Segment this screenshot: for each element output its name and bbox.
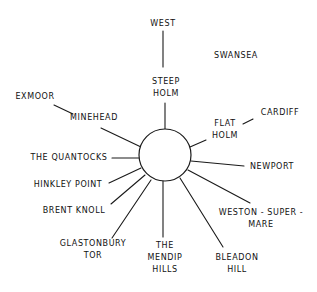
label-the-mendip-hills: THEMENDIPHILLS	[148, 240, 183, 276]
label-line: SWANSEA	[214, 50, 258, 62]
label-weston-super-mare: WESTON - SUPER -MARE	[219, 207, 304, 231]
label-line: HOLM	[212, 130, 238, 142]
label-line: GLASTONBURY	[60, 238, 126, 250]
label-exmoor: EXMOOR	[15, 91, 54, 103]
connector-cardiff-to-flat-holm	[243, 119, 253, 124]
label-line: MENDIP	[148, 252, 183, 264]
label-line: MINEHEAD	[70, 112, 118, 124]
label-brent-knoll: BRENT KNOLL	[43, 205, 106, 217]
connector-bleadon-hill-to-center	[180, 178, 223, 247]
label-line: TOR	[60, 250, 126, 262]
label-line: CARDIFF	[261, 107, 300, 119]
connector-newport-to-center	[191, 161, 244, 166]
label-glastonbury-tor: GLASTONBURYTOR	[60, 238, 126, 262]
label-bleadon-hill: BLEADONHILL	[215, 252, 258, 276]
label-the-quantocks: THE QUANTOCKS	[30, 152, 107, 164]
label-steep-holm: STEEPHOLM	[152, 76, 180, 100]
label-line: BRENT KNOLL	[43, 205, 106, 217]
label-line: THE QUANTOCKS	[30, 152, 107, 164]
label-swansea: SWANSEA	[214, 50, 258, 62]
label-line: THE	[148, 240, 183, 252]
label-line: STEEP	[152, 76, 180, 88]
label-line: BLEADON	[215, 252, 258, 264]
connector-weston-super-mare-to-center	[188, 170, 250, 203]
label-minehead: MINEHEAD	[70, 112, 118, 124]
label-line: FLAT	[212, 118, 238, 130]
label-line: HINKLEY POINT	[34, 179, 103, 191]
connector-glastonbury-tor-to-center	[112, 180, 151, 238]
label-line: HOLM	[152, 88, 180, 100]
radial-landmark-diagram: WESTSWANSEASTEEPHOLMEXMOORMINEHEADCARDIF…	[0, 0, 317, 292]
label-flat-holm: FLATHOLM	[212, 118, 238, 142]
label-line: EXMOOR	[15, 91, 54, 103]
label-hinkley-point: HINKLEY POINT	[34, 179, 103, 191]
label-line: WEST	[150, 18, 175, 30]
connector-minehead-to-center	[101, 128, 141, 147]
viewpoint-circle	[139, 129, 191, 181]
label-line: HILL	[215, 264, 258, 276]
label-line: NEWPORT	[250, 161, 294, 173]
label-west: WEST	[150, 18, 175, 30]
connector-flat-holm-to-center	[190, 140, 206, 147]
label-line: MARE	[219, 219, 304, 231]
label-cardiff: CARDIFF	[261, 107, 300, 119]
label-line: WESTON - SUPER -	[219, 207, 304, 219]
label-line: HILLS	[148, 264, 183, 276]
label-newport: NEWPORT	[250, 161, 294, 173]
connector-hinkley-point-to-center	[109, 168, 141, 183]
